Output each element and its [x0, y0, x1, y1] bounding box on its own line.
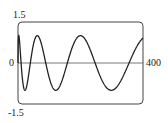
y-max-label: 1.5 — [13, 10, 26, 20]
x-max-label: 400 — [146, 58, 161, 68]
y-zero-label: 0 — [9, 58, 14, 68]
y-min-label: -1.5 — [8, 108, 24, 118]
